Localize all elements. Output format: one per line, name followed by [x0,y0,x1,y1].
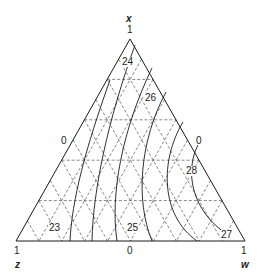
axis-x-label: x [126,14,132,24]
contour-26 [142,92,166,241]
triangle-outline [16,39,245,241]
contour-28 [192,145,228,235]
contour-label-24: 24 [121,57,134,67]
vertex-x-value: 1 [127,25,133,35]
contour-lines [70,45,228,241]
dashed-grid [27,59,233,241]
contour-label-27: 27 [220,230,233,240]
ternary-diagram: x 1 1 z 1 w 0 0 0 23 24 25 26 27 28 [0,0,262,278]
contour-label-26: 26 [144,93,157,103]
vertex-z-value: 1 [14,246,20,256]
bottom-edge-zero: 0 [127,246,133,256]
contour-label-23: 23 [48,223,61,233]
contour-label-28: 28 [185,166,198,176]
axis-z-label: z [15,260,20,270]
right-edge-zero: 0 [196,136,202,146]
contour-label-25: 25 [126,223,139,233]
left-edge-zero: 0 [61,136,67,146]
vertex-w-value: 1 [241,246,247,256]
axis-w-label: w [241,260,249,270]
